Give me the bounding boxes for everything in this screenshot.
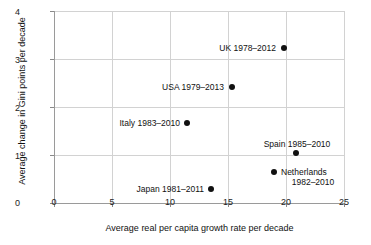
x-axis-line: [54, 203, 345, 204]
y-tick-mark-3: [50, 59, 54, 60]
data-label-italy: Italy 1983–2010: [70, 118, 180, 128]
data-label-spain: Spain 1985–2010: [240, 139, 354, 149]
gridline-x-15: [228, 11, 229, 203]
data-label-netherlands-name: Netherlands: [281, 167, 351, 177]
data-label-japan: Japan 1981–2011: [92, 184, 204, 194]
gridline-y-4: [54, 11, 344, 12]
x-tick-label-25: 25: [332, 198, 356, 207]
data-point-japan[interactable]: [208, 186, 214, 192]
y-tick-mark-2: [50, 107, 54, 108]
gridline-y-2: [54, 107, 344, 108]
gridline-x-5: [112, 11, 113, 203]
data-point-italy[interactable]: [184, 120, 190, 126]
scatter-chart: 4 3 2 1 0 Average change in Gini points …: [0, 0, 371, 245]
y-tick-mark-1: [50, 155, 54, 156]
data-point-netherlands[interactable]: [271, 169, 277, 175]
gridline-y-1: [54, 155, 344, 156]
data-point-usa[interactable]: [229, 84, 235, 90]
x-tick-label-0: 0: [42, 198, 66, 207]
x-axis-title: Average real per capita growth rate per …: [54, 223, 345, 233]
data-label-uk: UK 1978–2012: [164, 43, 276, 53]
gridline-y-3: [54, 59, 344, 60]
x-tick-label-5: 5: [100, 198, 124, 207]
gridline-x-10: [170, 11, 171, 203]
y-axis-line: [54, 11, 55, 203]
y-tick-mark-4: [50, 11, 54, 12]
data-label-netherlands-years: 1982–2010: [275, 177, 351, 187]
x-tick-label-20: 20: [274, 198, 298, 207]
x-tick-label-10: 10: [158, 198, 182, 207]
x-tick-label-15: 15: [216, 198, 240, 207]
data-label-usa: USA 1979–2013: [112, 82, 224, 92]
y-axis-title: Average change in Gini points per decade: [17, 1, 27, 201]
plot-area: UK 1978–2012 USA 1979–2013 Italy 1983–20…: [54, 11, 344, 203]
data-point-spain[interactable]: [293, 150, 299, 156]
data-point-uk[interactable]: [281, 45, 287, 51]
